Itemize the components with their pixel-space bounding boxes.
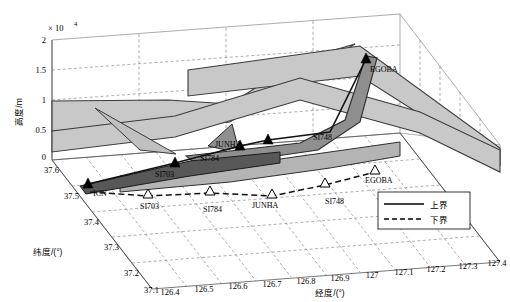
x-tick-2: 126.6 bbox=[228, 281, 247, 291]
label-ICN-upper: ICN bbox=[93, 189, 107, 198]
x-tick-1: 126.5 bbox=[194, 284, 213, 294]
y-tick-0: 37.6 bbox=[44, 165, 59, 175]
x-tick-7: 127.1 bbox=[394, 267, 413, 277]
z-multiplier-mantissa: × 10 bbox=[48, 23, 63, 33]
legend-background bbox=[378, 192, 470, 229]
marker-SI748-lower[interactable] bbox=[320, 178, 330, 187]
x-tick-5: 126.9 bbox=[330, 273, 349, 283]
z-tick-4: 0 bbox=[42, 152, 46, 162]
z-tick-1: 1.5 bbox=[35, 65, 46, 75]
z-tick-3: 0.5 bbox=[35, 125, 46, 135]
y-tick-5: 37.1 bbox=[144, 285, 159, 295]
label-JUNHA-upper: JUNHA bbox=[215, 140, 241, 149]
label-SI784-upper: SI784 bbox=[200, 154, 219, 163]
z-axis-ticks: 2 1.5 1 0.5 0 bbox=[35, 35, 46, 162]
z-axis-title: 高度/m bbox=[14, 98, 24, 125]
marker-JUNHA-lower[interactable] bbox=[267, 189, 277, 198]
label-SI703-lower: SI703 bbox=[140, 202, 159, 211]
plot-3d-svg: ICN SI703 SI784 JUNHA SI748 EGOBA SI703 … bbox=[0, 0, 510, 302]
x-tick-3: 126.7 bbox=[262, 279, 281, 289]
label-SI748-lower: SI748 bbox=[325, 197, 344, 206]
corridor-surfaces bbox=[52, 44, 500, 194]
legend-box[interactable]: 上界 下界 bbox=[378, 192, 470, 229]
label-SI748-upper: SI748 bbox=[313, 133, 332, 142]
z-tick-0: 2 bbox=[42, 35, 46, 45]
marker-SI784-lower[interactable] bbox=[205, 186, 215, 195]
y-tick-2: 37.4 bbox=[84, 217, 100, 227]
x-tick-0: 126.4 bbox=[160, 287, 180, 297]
z-multiplier-exponent: 4 bbox=[74, 20, 78, 27]
x-tick-6: 127 bbox=[366, 270, 379, 280]
label-EGOBA-upper: EGOBA bbox=[370, 65, 398, 74]
label-SI703-upper: SI703 bbox=[155, 170, 174, 179]
label-SI784-lower: SI784 bbox=[203, 205, 222, 214]
label-JUNHA-lower: JUNHA bbox=[252, 201, 278, 210]
label-EGOBA-lower: EGOBA bbox=[365, 176, 393, 185]
x-axis-title: 经度/(°) bbox=[315, 288, 345, 298]
z-tick-2: 1 bbox=[42, 95, 46, 105]
y-tick-1: 37.5 bbox=[64, 191, 79, 201]
y-tick-3: 37.3 bbox=[104, 242, 119, 252]
chart-canvas: ICN SI703 SI784 JUNHA SI748 EGOBA SI703 … bbox=[0, 0, 510, 302]
z-axis-multiplier: × 10 4 bbox=[48, 20, 78, 33]
x-tick-9: 127.3 bbox=[458, 261, 477, 271]
marker-EGOBA-lower[interactable] bbox=[370, 165, 380, 174]
legend-label-lower: 下界 bbox=[430, 215, 448, 225]
y-axis-title: 纬度/(°) bbox=[33, 247, 63, 257]
x-tick-4: 126.8 bbox=[296, 276, 315, 286]
x-tick-8: 127.2 bbox=[426, 264, 445, 274]
legend-label-upper: 上界 bbox=[430, 200, 448, 210]
x-tick-10: 127.4 bbox=[487, 258, 507, 268]
y-tick-4: 37.2 bbox=[124, 268, 139, 278]
